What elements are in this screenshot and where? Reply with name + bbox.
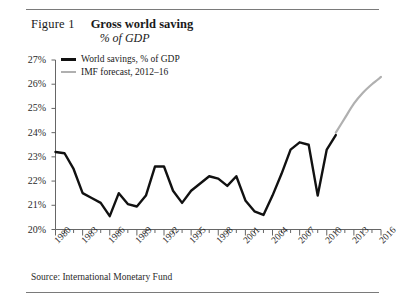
y-axis-tick-label: 24% — [14, 128, 46, 138]
series-line-actual — [56, 135, 336, 216]
series-line-forecast — [336, 77, 381, 133]
chart-plot-area — [0, 0, 405, 307]
y-axis-tick-label: 26% — [14, 79, 46, 89]
chart-series-lines — [56, 77, 382, 216]
chart-axes — [56, 60, 382, 230]
source-note: Source: International Monetary Fund — [31, 272, 172, 282]
y-axis-tick-label: 20% — [14, 225, 46, 235]
y-axis-ticks — [52, 60, 56, 230]
y-axis-tick-label: 25% — [14, 103, 46, 113]
y-axis-tick-label: 22% — [14, 176, 46, 186]
y-axis-tick-label: 23% — [14, 152, 46, 162]
y-axis-tick-label: 21% — [14, 200, 46, 210]
y-axis-tick-label: 27% — [14, 55, 46, 65]
figure-container: Figure 1 Gross world saving % of GDP Wor… — [0, 0, 405, 307]
